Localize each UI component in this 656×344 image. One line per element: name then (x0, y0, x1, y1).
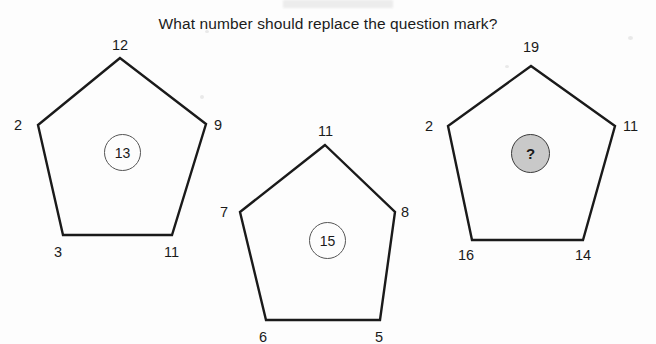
pentagon-1-center-value: 13 (104, 134, 141, 171)
pentagon-2-vertex-bottom-right: 5 (375, 330, 383, 344)
pentagon-1-vertex-bottom-right: 11 (164, 245, 179, 260)
puzzle-page: What number should replace the question … (0, 0, 656, 344)
pentagon-3-vertex-bottom-right: 14 (575, 248, 591, 263)
pentagon-1-vertex-bottom-left: 3 (54, 245, 62, 260)
pentagon-3-question-mark: ? (511, 134, 550, 173)
pentagon-2-center-value: 15 (309, 222, 346, 259)
pentagon-1-vertex-right: 9 (214, 118, 222, 133)
pentagon-2-vertex-right: 8 (401, 205, 409, 220)
pentagon-2-vertex-top: 11 (318, 124, 333, 139)
pentagon-2-vertex-bottom-left: 6 (259, 330, 267, 344)
pentagon-3-vertex-right: 11 (623, 119, 638, 134)
pentagons-figure (0, 0, 656, 344)
pentagon-2-vertex-left: 7 (220, 205, 228, 220)
pentagon-3-vertex-top: 19 (523, 40, 539, 55)
pentagon-3-vertex-bottom-left: 16 (458, 248, 474, 263)
pentagon-1-vertex-left: 2 (14, 118, 22, 133)
pentagon-3-vertex-left: 2 (425, 119, 433, 134)
pentagon-1-vertex-top: 12 (112, 38, 128, 53)
